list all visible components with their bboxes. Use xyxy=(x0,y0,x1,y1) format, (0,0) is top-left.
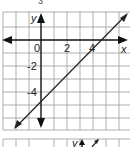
tick-label-0: 0 xyxy=(34,42,40,54)
tick-label-neg4: -4 xyxy=(27,86,37,98)
x-axis-arrow-left-icon xyxy=(2,36,12,44)
x-axis-label: x xyxy=(120,43,127,55)
next-graph-fragment xyxy=(3,139,130,147)
axes xyxy=(8,17,124,124)
tick-label-2: 2 xyxy=(64,42,70,54)
next-y-axis-label: y xyxy=(71,137,79,147)
coordinate-graph: y x 0 2 4 -2 -4 y xyxy=(0,0,130,147)
y-axis-arrow-up-icon xyxy=(37,13,45,23)
y-axis-label: y xyxy=(30,12,38,24)
y-axis-arrow-down-icon xyxy=(37,118,45,128)
tick-label-neg2: -2 xyxy=(27,60,37,72)
